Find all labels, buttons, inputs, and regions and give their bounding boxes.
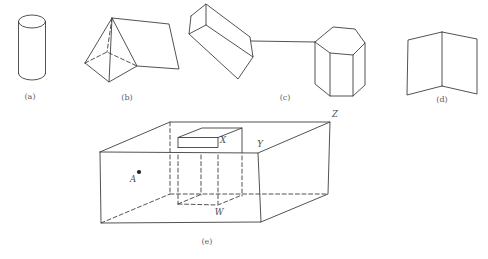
figure-label-folded-card: (d): [436, 95, 447, 104]
geometric-solids-diagram: (a)(b)(c)(d)(e)AWXYZ: [0, 0, 488, 259]
edge-dashed-hidden: [85, 52, 137, 66]
figure-label-box-with-inner-box: (e): [202, 237, 213, 246]
edge-solid: [178, 138, 218, 148]
point-label-x: X: [219, 135, 227, 145]
figure-folded-card: (d): [407, 32, 477, 104]
figure-label-cylinder: (a): [24, 92, 35, 101]
figure-label-pyramid-prism: (b): [121, 93, 132, 102]
edge-solid: [109, 18, 137, 82]
ellipse-edge: [19, 15, 46, 28]
edge-dashed-hidden: [178, 194, 202, 204]
figure-box-and-hexagonal-prism: (c): [189, 4, 365, 102]
edge-solid: [407, 32, 442, 95]
edge-dashed-hidden: [101, 194, 170, 223]
edge-solid: [315, 27, 365, 55]
point-label-y: Y: [257, 139, 264, 149]
arc-edge: [19, 74, 46, 81]
edge-solid: [85, 18, 112, 82]
figure-label-box-and-hexagonal-prism: (c): [280, 93, 291, 102]
edge-solid: [206, 4, 253, 57]
edge-solid: [189, 34, 253, 79]
edge-solid: [112, 18, 179, 69]
edge-solid: [189, 4, 206, 34]
point-label-w: W: [215, 207, 225, 217]
edge-solid: [251, 41, 315, 42]
point-label-z: Z: [331, 109, 339, 119]
point-label-a: A: [129, 174, 136, 184]
figure-page: (a)(b)(c)(d)(e)AWXYZ: [0, 0, 488, 259]
figure-pyramid-prism: (b): [85, 18, 179, 102]
point-marker-dot: [137, 170, 141, 174]
edge-solid: [178, 128, 242, 138]
edge-solid: [442, 32, 477, 94]
figure-box-with-inner-box: (e)AWXYZ: [100, 109, 339, 246]
figure-cylinder: (a): [19, 15, 46, 101]
edge-solid: [100, 152, 261, 223]
